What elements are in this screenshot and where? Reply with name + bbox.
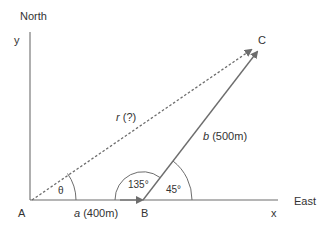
- point-a-label: A: [18, 207, 26, 219]
- vector-a-label: a (400m): [74, 207, 118, 219]
- north-label: North: [20, 10, 47, 22]
- vector-r: [32, 50, 251, 200]
- vector-r-label: r (?): [116, 111, 136, 123]
- angle-135-label: 135°: [128, 179, 149, 190]
- theta-arc: [68, 174, 77, 201]
- vector-diagram: North y East x A B C a (400m) b (500m) r…: [0, 0, 331, 232]
- point-b-label: B: [141, 207, 148, 219]
- x-axis-label: x: [271, 207, 277, 219]
- vector-b: [143, 52, 257, 200]
- theta-label: θ: [58, 185, 64, 196]
- angle-45-label: 45°: [166, 184, 181, 195]
- east-label: East: [294, 195, 316, 207]
- vector-b-label: b (500m): [203, 130, 247, 142]
- y-axis-label: y: [14, 34, 20, 46]
- point-c-label: C: [258, 34, 266, 46]
